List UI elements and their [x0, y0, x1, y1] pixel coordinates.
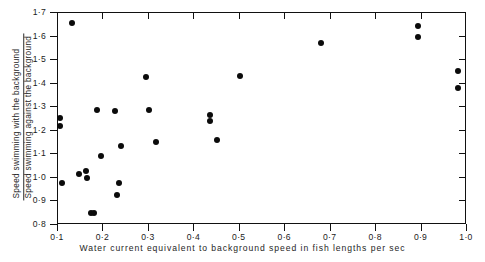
y-axis-tick-label: 1·7 — [0, 7, 50, 17]
x-axis-tick-top — [284, 12, 285, 19]
y-axis-tick-right — [459, 106, 466, 107]
x-axis-tick — [148, 224, 149, 231]
plot-area-frame — [57, 12, 466, 224]
y-axis-tick-right — [459, 130, 466, 131]
y-axis-tick — [50, 59, 57, 60]
y-axis-tick — [50, 130, 57, 131]
x-axis-tick-label: 0·1 — [37, 232, 77, 242]
y-axis-tick-label: 1·6 — [0, 30, 50, 40]
x-axis-tick-top — [239, 12, 240, 19]
y-axis-tick — [50, 153, 57, 154]
x-axis-tick-label: 1·0 — [446, 232, 485, 242]
y-axis-tick-label: 1·3 — [0, 101, 50, 111]
y-axis-tick-right — [459, 153, 466, 154]
x-axis-tick-label: 0·9 — [401, 232, 441, 242]
y-axis-tick-right — [459, 36, 466, 37]
y-axis-tick — [50, 36, 57, 37]
y-axis-tick — [50, 12, 57, 13]
x-axis-tick-label: 0·4 — [173, 232, 213, 242]
x-axis-tick-label: 0·6 — [264, 232, 304, 242]
y-axis-tick-label: 1·1 — [0, 148, 50, 158]
x-axis-label: Water current equivalent to background s… — [0, 243, 485, 253]
x-axis-tick-label: 0·7 — [310, 232, 350, 242]
y-axis-tick-label: 1·5 — [0, 54, 50, 64]
x-axis-tick-top — [330, 12, 331, 19]
scatter-plot-figure: Speed swimming with the background Speed… — [0, 0, 485, 262]
x-axis-tick — [466, 224, 467, 231]
y-axis-tick — [50, 106, 57, 107]
x-axis-tick — [239, 224, 240, 231]
y-axis-tick-label: 1·0 — [0, 171, 50, 181]
y-axis-tick-label: 1·4 — [0, 77, 50, 87]
y-axis-tick-right — [459, 83, 466, 84]
x-axis-tick — [421, 224, 422, 231]
y-axis-tick-right — [459, 177, 466, 178]
x-axis-tick — [57, 224, 58, 231]
x-axis-tick-top — [148, 12, 149, 19]
y-axis-tick — [50, 224, 57, 225]
y-axis-tick — [50, 83, 57, 84]
y-axis-tick-label: 0·8 — [0, 219, 50, 229]
x-axis-tick — [102, 224, 103, 231]
x-axis-tick-top — [193, 12, 194, 19]
y-axis-tick — [50, 200, 57, 201]
y-axis-tick — [50, 177, 57, 178]
y-axis-tick-label: 1·2 — [0, 124, 50, 134]
x-axis-tick — [284, 224, 285, 231]
y-axis-tick-label: 0·9 — [0, 195, 50, 205]
x-axis-tick — [193, 224, 194, 231]
x-axis-tick-top — [421, 12, 422, 19]
y-axis-tick-right — [459, 200, 466, 201]
x-axis-tick-label: 0·8 — [355, 232, 395, 242]
x-axis-tick — [330, 224, 331, 231]
x-axis-tick-label: 0·5 — [219, 232, 259, 242]
y-axis-tick-right — [459, 59, 466, 60]
x-axis-tick-label: 0·3 — [128, 232, 168, 242]
x-axis-tick-top — [102, 12, 103, 19]
x-axis-tick-label: 0·2 — [82, 232, 122, 242]
x-axis-tick-top — [375, 12, 376, 19]
x-axis-tick — [375, 224, 376, 231]
